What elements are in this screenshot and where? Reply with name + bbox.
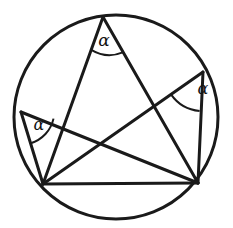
angle-left-label: α <box>34 115 45 134</box>
chord-top-to-b1 <box>43 17 103 184</box>
geometry-figure: ααα <box>0 0 233 228</box>
angle-right-label: α <box>198 79 209 98</box>
angle-top-label: α <box>98 30 110 50</box>
angle-right-arc <box>171 94 200 111</box>
circumscribed-circle <box>14 15 218 219</box>
angle-top-arc <box>91 50 123 55</box>
chord-right-to-b1 <box>43 72 203 184</box>
figure-canvas: ααα <box>0 0 233 228</box>
angle-arc-group <box>31 50 200 143</box>
chord-base-b1-b2 <box>43 183 198 184</box>
